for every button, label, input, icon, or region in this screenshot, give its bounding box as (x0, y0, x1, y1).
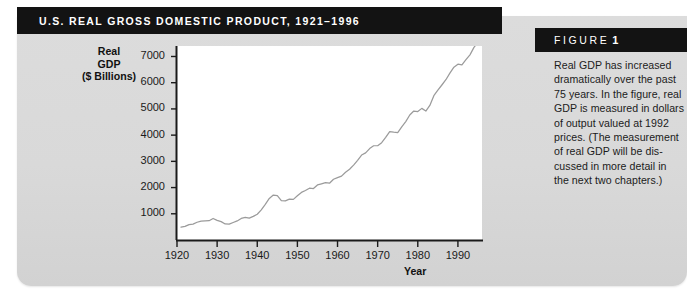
caption-line: GDP is measured in dollars (554, 101, 680, 115)
plot-box (177, 46, 482, 240)
gdp-line-series (181, 46, 482, 227)
x-tick-label: 1980 (398, 249, 438, 261)
y-tick-label: 3000 (119, 154, 165, 166)
x-tick-label: 1950 (277, 249, 317, 261)
caption-line: the next two chapters.) (554, 173, 680, 187)
caption-line: prices. (The measurement (554, 130, 680, 144)
y-tick-label: 2000 (119, 180, 165, 192)
caption-line: 75 years. In the figure, real (554, 87, 680, 101)
x-tick-label: 1920 (157, 249, 197, 261)
y-tick-label: 7000 (119, 49, 165, 61)
figure-label: FIGURE (535, 34, 609, 46)
caption-line: of real GDP will be dis- (554, 144, 680, 158)
gdp-line-plot (177, 46, 482, 240)
x-tick-label: 1930 (197, 249, 237, 261)
x-tick-label: 1970 (358, 249, 398, 261)
figure-number: 1 (612, 34, 619, 46)
x-tick-label: 1960 (318, 249, 358, 261)
x-tick-label: 1940 (237, 249, 277, 261)
y-tick-label: 6000 (119, 75, 165, 87)
caption-line: Real GDP has increased (554, 58, 680, 72)
y-tick-label: 5000 (119, 101, 165, 113)
x-axis-title: Year (404, 265, 464, 278)
x-tick-label: 1990 (438, 249, 478, 261)
chart-area: RealGDP($ Billions) Year 100020003000400… (0, 0, 530, 286)
caption-line: dramatically over the past (554, 72, 680, 86)
y-tick-label: 4000 (119, 128, 165, 140)
y-tick-label: 1000 (119, 206, 165, 218)
figure-screenshot: U.S. Real Gross Domestic Product, 1921–1… (0, 0, 687, 304)
caption-line: of output valued at 1992 (554, 116, 680, 130)
figure-caption: Real GDP has increaseddramatically over … (554, 58, 680, 188)
figure-number-bar: FIGURE 1 (535, 28, 687, 52)
caption-line: cussed in more detail in (554, 159, 680, 173)
